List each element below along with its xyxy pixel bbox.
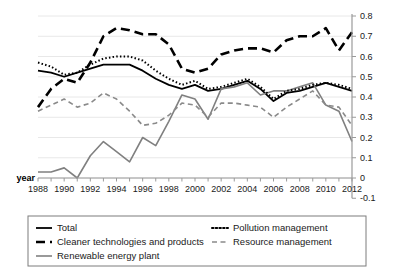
series-line-pollution-management [38, 57, 352, 100]
x-axis-tick-labels: 1988199019921994199619982000200220042006… [28, 184, 362, 194]
y-tick-label: 0.6 [360, 52, 373, 62]
legend-label-resource-management: Resource management [233, 236, 332, 247]
y-tick-label: 0.3 [360, 112, 373, 122]
legend-label-renewable-energy-plant: Renewable energy plant [57, 250, 160, 261]
series-group [38, 28, 352, 178]
x-tick-label: 1990 [54, 184, 74, 194]
legend-label-cleaner-technologies-and-products: Cleaner technologies and products [57, 236, 204, 247]
y-axis-tick-labels: 0.80.70.60.50.40.30.20.10-0.1 [360, 11, 376, 203]
gridlines [38, 16, 352, 178]
y-tick-label: 0.4 [360, 92, 373, 102]
x-tick-label: 1988 [28, 184, 48, 194]
y-tick-label: 0.1 [360, 153, 373, 163]
y-tick-label: 0.7 [360, 31, 373, 41]
x-tick-label: 2006 [263, 184, 283, 194]
x-tick-label: 2004 [237, 184, 257, 194]
x-tick-label: 2002 [211, 184, 231, 194]
x-tick-label: 1994 [106, 184, 126, 194]
line-chart: 0.80.70.60.50.40.30.20.10-0.1 1988199019… [0, 0, 396, 273]
x-axis-title: year [16, 173, 35, 183]
chart-canvas: 0.80.70.60.50.40.30.20.10-0.1 1988199019… [0, 0, 396, 273]
y-tick-label: 0 [360, 173, 365, 183]
x-tick-label: 1996 [133, 184, 153, 194]
x-tick-label: 2008 [290, 184, 310, 194]
series-line-resource-management [38, 91, 352, 125]
x-tick-label: 2010 [316, 184, 336, 194]
x-tick-label: 2000 [185, 184, 205, 194]
x-axis-title-label: year [16, 173, 35, 183]
chart-legend: TotalCleaner technologies and productsRe… [28, 216, 366, 266]
y-tick-label: 0.2 [360, 133, 373, 143]
y-tick-label: 0.5 [360, 72, 373, 82]
x-tick-label: 1992 [80, 184, 100, 194]
x-tick-label: 1998 [159, 184, 179, 194]
legend-label-pollution-management: Pollution management [233, 222, 328, 233]
y-tick-label: 0.8 [360, 11, 373, 21]
x-tick-label: 2012 [342, 184, 362, 194]
legend-label-total: Total [57, 222, 77, 233]
y-tick-label: -0.1 [360, 193, 376, 203]
